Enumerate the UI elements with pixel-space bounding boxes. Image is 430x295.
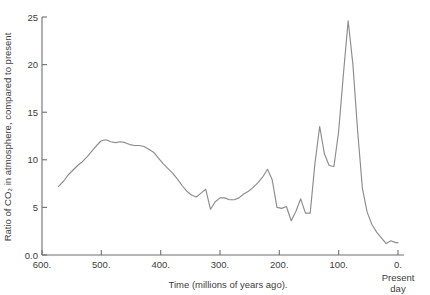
x-tick-label: 100. — [329, 259, 348, 270]
y-tick-labels: 0.0 5 10 15 20 25 — [25, 12, 38, 261]
present-day-label-line1: Present — [382, 272, 415, 283]
y-axis-title: Ratio of CO₂ in atmosphere, compared to … — [2, 32, 13, 241]
x-tick-label: 600. — [33, 259, 52, 270]
y-tick-label: 10 — [27, 154, 38, 165]
y-tick-label: 5 — [33, 202, 38, 213]
present-day-label-line2: day — [390, 283, 406, 294]
x-tick-label: 0. — [394, 259, 402, 270]
x-axis-title: Time (millions of years ago). — [169, 279, 288, 290]
x-tick-label: 200. — [270, 259, 289, 270]
y-tick-marks — [42, 17, 47, 255]
x-tick-marks — [42, 250, 398, 255]
y-tick-label: 15 — [27, 107, 38, 118]
x-tick-label: 300. — [211, 259, 230, 270]
x-tick-label: 500. — [92, 259, 111, 270]
x-tick-label: 400. — [151, 259, 170, 270]
co2-ratio-line — [59, 21, 398, 244]
y-tick-label: 25 — [27, 12, 38, 23]
y-tick-label: 20 — [27, 59, 38, 70]
co2-ratio-chart: 0.0 5 10 15 20 25 600. 500. 400. 300. 20… — [0, 0, 430, 295]
chart-svg: 0.0 5 10 15 20 25 600. 500. 400. 300. 20… — [0, 0, 430, 295]
x-tick-labels: 600. 500. 400. 300. 200. 100. 0. — [33, 259, 402, 270]
